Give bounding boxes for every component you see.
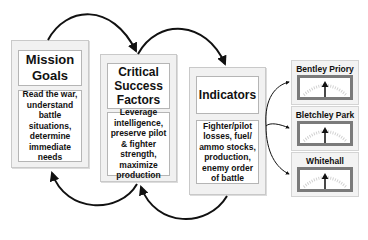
gauge-dial-icon xyxy=(297,75,353,100)
critical-success-factors-title: CriticalSuccessFactors xyxy=(107,63,170,109)
critical-success-factors-body: Leverage intelligence, preserve pilot & … xyxy=(107,112,170,176)
needle-up-icon xyxy=(300,78,350,97)
indicators-box: Indicators Fighter/pilot losses, fuel/ a… xyxy=(189,67,266,195)
gauge-dial-icon xyxy=(297,167,353,192)
critical-success-factors-box: CriticalSuccessFactors Leverage intellig… xyxy=(100,54,177,182)
gauge-dial-icon xyxy=(297,121,353,146)
gauge-label: Bentley Priory xyxy=(292,64,358,74)
needle-up-icon xyxy=(300,170,350,189)
needle-up-icon xyxy=(300,124,350,143)
mission-goals-title-line: Mission xyxy=(26,52,74,67)
mission-goals-title: MissionGoals xyxy=(18,50,82,86)
csf-title-line: Critical xyxy=(118,65,159,79)
gauge-panel-whitehall: Whitehall xyxy=(291,152,359,197)
gauge-label: Whitehall xyxy=(292,156,358,166)
arrow-icon xyxy=(266,126,289,174)
csf-title-line: Success xyxy=(114,79,163,93)
gauge-panel-bletchley-park: Bletchley Park xyxy=(291,106,359,151)
mission-goals-body: Read the war, understand battle situatio… xyxy=(18,90,82,162)
arrow-icon xyxy=(266,124,289,128)
mission-goals-box: MissionGoals Read the war, understand ba… xyxy=(11,40,89,168)
gauge-label: Bletchley Park xyxy=(292,110,358,120)
mission-goals-title-line: Goals xyxy=(32,68,68,83)
indicators-title: Indicators xyxy=(196,76,259,114)
arrow-icon xyxy=(266,82,289,126)
indicators-body: Fighter/pilot losses, fuel/ ammo stocks,… xyxy=(196,120,259,184)
csf-title-line: Factors xyxy=(117,93,160,107)
gauge-panel-bentley-priory: Bentley Priory xyxy=(291,60,359,105)
